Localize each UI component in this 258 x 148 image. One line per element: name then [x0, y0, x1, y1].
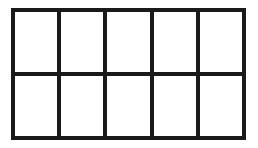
grid-cell-r2-c1: [15, 76, 57, 136]
grid-cell-r2-c4: [154, 76, 196, 136]
grid-cell-r1-c1: [15, 12, 57, 72]
grid-cell-r2-c2: [61, 76, 103, 136]
grid-frame: [11, 8, 246, 140]
grid-cell-r1-c4: [154, 12, 196, 72]
grid-cell-r1-c3: [107, 12, 149, 72]
grid-cell-r2-c3: [107, 76, 149, 136]
grid-cell-r2-c5: [200, 76, 242, 136]
grid-cell-r1-c2: [61, 12, 103, 72]
grid-cell-r1-c5: [200, 12, 242, 72]
